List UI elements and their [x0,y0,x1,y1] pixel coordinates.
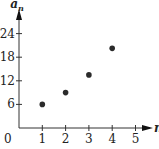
y-tick-label: 18 [0,50,15,64]
x-axis-label: n [154,121,159,135]
data-point [109,46,115,52]
data-point [40,102,46,108]
y-axis-label: an [10,0,24,13]
x-tick-label: 5 [132,132,140,146]
data-point [86,72,92,78]
y-tick-label: 6 [7,97,15,111]
y-tick-label: 24 [0,27,15,41]
x-tick-label: 1 [38,132,46,146]
x-tick-label: 3 [85,132,93,146]
y-tick-label: 12 [0,74,15,88]
origin-label: 0 [4,132,12,146]
x-tick-label: 4 [108,132,116,146]
data-point [63,90,69,96]
scatter-chart: 1234561218240ann [0,0,159,149]
x-axis-arrow-icon [142,125,153,131]
x-tick-label: 2 [62,132,70,146]
